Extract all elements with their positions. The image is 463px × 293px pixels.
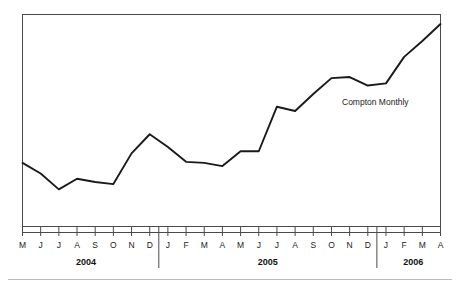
x-axis-year-labels: 200420052006 [76,257,423,267]
x-axis-month-label: M [237,240,244,250]
x-axis-month-label: A [220,240,226,250]
x-axis-month-label: O [328,240,335,250]
x-axis-month-label: A [438,240,444,250]
x-axis-month-label: J [384,240,388,250]
x-axis-month-label: S [310,240,316,250]
x-axis-month-label: N [128,240,134,250]
x-axis-month-label: M [19,240,26,250]
x-axis-month-label: A [74,240,80,250]
x-axis-month-label: J [166,240,170,250]
chart-figure: MJJASONDJFMAMJJASONDJFMA 200420052006 Co… [0,0,463,293]
plot-frame [23,15,441,227]
x-axis-month-label: M [201,240,208,250]
x-axis-ticks [23,227,441,236]
x-axis-month-label: D [365,240,371,250]
x-axis-month-label: J [275,240,279,250]
x-axis-month-label: O [110,240,117,250]
x-axis-month-label: S [92,240,98,250]
x-axis-year-label: 2006 [403,257,423,267]
x-axis-year-label: 2004 [76,257,96,267]
x-axis-month-label: N [347,240,353,250]
series-annotation-label: Compton Monthly [342,97,409,107]
x-axis-month-label: F [183,240,188,250]
x-axis-month-label: J [257,240,261,250]
x-axis-month-label: A [292,240,298,250]
x-axis-year-label: 2005 [258,257,278,267]
x-axis-month-label: J [57,240,61,250]
x-axis-month-label: F [402,240,407,250]
x-axis-month-label: M [419,240,426,250]
x-axis-month-label: J [39,240,43,250]
x-axis-month-label: D [147,240,153,250]
line-chart: MJJASONDJFMAMJJASONDJFMA 200420052006 Co… [0,0,463,293]
x-axis-month-labels: MJJASONDJFMAMJJASONDJFMA [19,240,444,250]
